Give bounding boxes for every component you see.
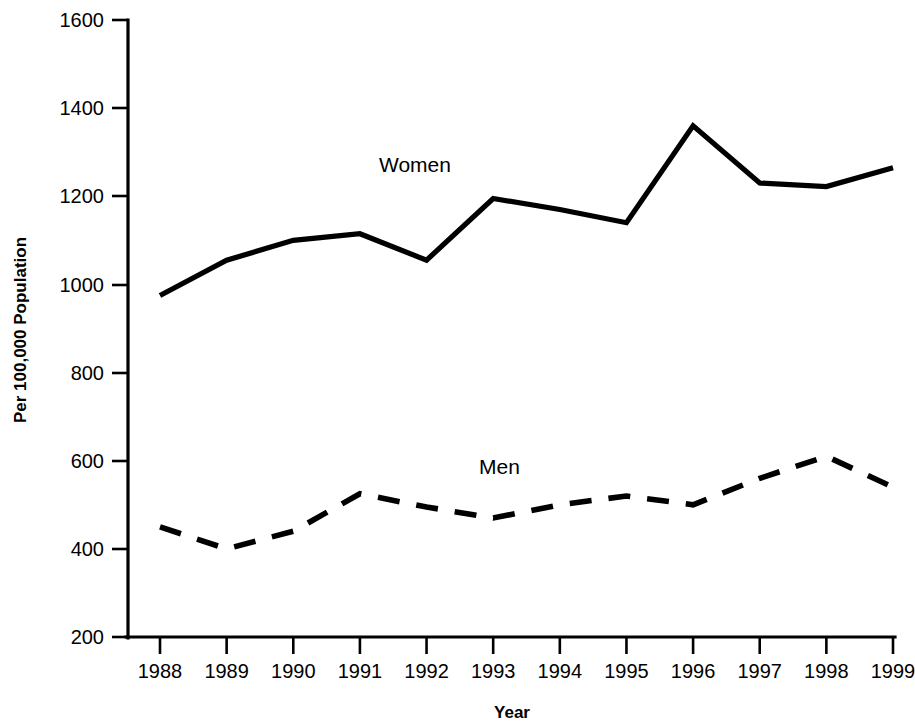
x-tick-label-1988: 1988 — [138, 660, 183, 682]
y-tick-label-400: 400 — [71, 538, 104, 560]
x-tick-label-1999: 1999 — [871, 660, 915, 682]
x-tick-label-1995: 1995 — [604, 660, 649, 682]
series-paths — [160, 126, 893, 549]
x-tick-label-1992: 1992 — [404, 660, 449, 682]
x-tick-labels: 1988198919901991199219931994199519961997… — [138, 660, 915, 682]
y-tick-label-600: 600 — [71, 450, 104, 472]
line-chart: 1600 1400 1200 1000 800 600 400 200 Per … — [0, 0, 915, 725]
y-tick-label-1200: 1200 — [60, 185, 105, 207]
x-tick-label-1993: 1993 — [471, 660, 516, 682]
x-tick-label-1994: 1994 — [538, 660, 583, 682]
x-tick-label-1996: 1996 — [671, 660, 716, 682]
x-tick-marks — [160, 637, 893, 654]
series-line-men — [160, 456, 893, 549]
x-tick-label-1989: 1989 — [204, 660, 249, 682]
x-axis-title: Year — [494, 703, 530, 722]
y-tick-label-800: 800 — [71, 362, 104, 384]
series-line-women — [160, 126, 893, 296]
y-tick-marks — [112, 20, 128, 637]
series-label-women: Women — [379, 153, 451, 176]
y-tick-label-1600: 1600 — [60, 9, 105, 31]
y-tick-labels: 1600 1400 1200 1000 800 600 400 200 — [60, 9, 105, 648]
chart-canvas: 1600 1400 1200 1000 800 600 400 200 Per … — [0, 0, 915, 725]
x-tick-label-1997: 1997 — [737, 660, 782, 682]
x-tick-label-1990: 1990 — [271, 660, 316, 682]
y-tick-label-200: 200 — [71, 626, 104, 648]
series-label-men: Men — [479, 455, 520, 478]
x-tick-label-1991: 1991 — [338, 660, 383, 682]
y-tick-label-1000: 1000 — [60, 274, 105, 296]
y-tick-label-1400: 1400 — [60, 97, 105, 119]
x-tick-label-1998: 1998 — [804, 660, 849, 682]
y-axis-title: Per 100,000 Population — [11, 237, 30, 423]
